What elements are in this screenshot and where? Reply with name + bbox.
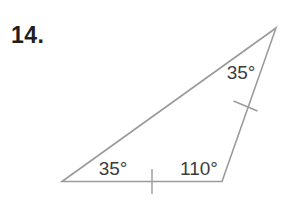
worksheet-problem: 14. 35° 35° 110°	[0, 0, 281, 208]
angle-label-bottom-left: 35°	[99, 158, 128, 179]
right-side-tick-mark	[234, 101, 258, 111]
angle-label-apex: 35°	[227, 62, 256, 83]
angle-label-bottom-right: 110°	[180, 158, 218, 179]
triangle-figure: 35° 35° 110°	[0, 0, 281, 208]
